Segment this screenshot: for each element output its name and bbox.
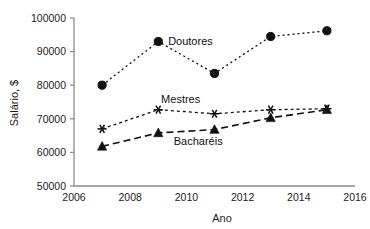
data-point-circle <box>323 27 331 35</box>
data-point-asterisk <box>210 110 219 118</box>
x-axis-tick-label: 2012 <box>231 191 255 203</box>
data-point-triangle <box>266 113 275 122</box>
y-axis-tick-label: 60000 <box>37 146 66 158</box>
x-axis-tick-label: 2016 <box>343 191 367 203</box>
series-1 <box>98 27 331 90</box>
x-axis-tick-label: 2006 <box>62 191 86 203</box>
chart-canvas: 5000060000700008000090000100000 20062008… <box>0 0 370 229</box>
series-layer <box>97 27 331 151</box>
y-axis-tick-label: 80000 <box>37 79 66 91</box>
data-point-circle <box>210 69 218 77</box>
x-axis-tick-label: 2008 <box>119 191 143 203</box>
data-point-asterisk <box>154 106 163 114</box>
x-axis-tick-label: 2014 <box>287 191 311 203</box>
data-point-asterisk <box>98 125 107 133</box>
y-axis: 5000060000700008000090000100000 <box>31 12 74 192</box>
y-axis-tick-label: 90000 <box>37 45 66 57</box>
series-label-mestres: Mestres <box>161 93 201 105</box>
y-axis-tick-label: 100000 <box>31 12 66 24</box>
salary-line-chart: 5000060000700008000090000100000 20062008… <box>0 0 370 229</box>
data-point-circle <box>267 32 275 40</box>
x-axis-title: Ano <box>212 212 232 224</box>
data-point-circle <box>98 81 106 89</box>
y-axis-title: Salário, $ <box>8 80 20 126</box>
series-label-bacharéis: Bacharéis <box>174 135 223 147</box>
y-axis-tick-label: 50000 <box>37 180 66 192</box>
y-axis-tick-label: 70000 <box>37 113 66 125</box>
x-axis: 200620082010201220142016 <box>62 186 367 203</box>
series-label-doutores: Doutores <box>168 35 213 47</box>
data-point-circle <box>154 37 162 45</box>
x-axis-tick-label: 2010 <box>175 191 199 203</box>
